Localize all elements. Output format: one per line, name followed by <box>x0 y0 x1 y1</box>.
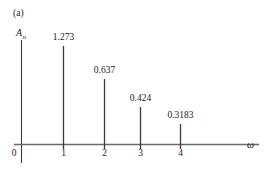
panel-label: (a) <box>13 9 24 19</box>
figure-line-spectrum: (a) An ω 1.273 0.637 0.424 0.3183 0 1 2 … <box>0 0 275 184</box>
value-label-1: 1.273 <box>53 33 74 43</box>
y-axis-label: An <box>16 28 26 38</box>
tick-label-3: 3 <box>138 149 143 159</box>
value-label-4: 0.3183 <box>167 111 193 121</box>
value-label-2: 0.637 <box>94 66 115 76</box>
x-axis-label: ω <box>247 140 254 150</box>
value-label-3: 0.424 <box>130 94 151 104</box>
tick-label-0: 0 <box>12 149 17 159</box>
y-axis-label-subscript: n <box>22 33 26 41</box>
tick-label-1: 1 <box>61 149 66 159</box>
tick-label-4: 4 <box>178 149 183 159</box>
tick-label-2: 2 <box>102 149 107 159</box>
